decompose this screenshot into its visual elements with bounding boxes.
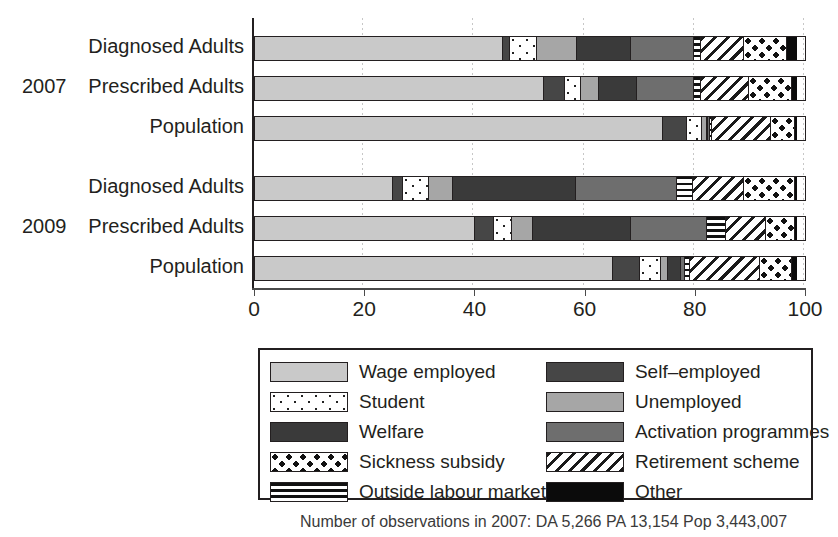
legend-grid: Wage employedSelf–employedStudentUnemplo… (270, 358, 805, 505)
bar-segment-unemp[interactable] (580, 77, 599, 100)
chart-caption: Number of observations in 2007: DA 5,266… (300, 513, 838, 531)
group-year-2007: 2007 (22, 76, 67, 96)
x-tick-label-0: 0 (248, 298, 260, 319)
group-year-2009: 2009 (22, 216, 67, 236)
legend-swatch-icon (270, 362, 348, 382)
bar-segment-unemp[interactable] (428, 177, 453, 200)
bar-segment-sick[interactable] (759, 257, 792, 280)
legend-item[interactable]: Outside labour market (270, 478, 546, 505)
bar-segment-wage[interactable] (255, 77, 544, 100)
bar-row-3[interactable] (254, 176, 806, 201)
bar-segment-retire[interactable] (700, 37, 744, 60)
bar-segment-other[interactable] (794, 117, 797, 140)
y-label-row-3: Diagnosed Adults (88, 176, 244, 196)
bar-segment-activation[interactable] (630, 217, 707, 240)
bar-segment-outside[interactable] (676, 177, 693, 200)
bar-segment-student[interactable] (639, 257, 661, 280)
bar-segment-other[interactable] (794, 177, 797, 200)
bar-segment-wage[interactable] (255, 257, 613, 280)
bar-segment-other[interactable] (794, 217, 797, 240)
bar-segment-activation[interactable] (636, 77, 694, 100)
bar-segment-retire[interactable] (692, 177, 744, 200)
legend-label: Unemployed (635, 392, 742, 411)
bar-segment-wage[interactable] (255, 117, 663, 140)
legend-label: Activation programmes (635, 422, 829, 441)
bar-segment-student[interactable] (509, 37, 537, 60)
bar-segment-self[interactable] (474, 217, 493, 240)
bar-segment-self[interactable] (662, 117, 687, 140)
legend-swatch-icon (270, 482, 348, 502)
y-label-row-2: Population (149, 116, 244, 136)
bar-segment-welfare[interactable] (532, 217, 631, 240)
bar-segment-activation[interactable] (630, 37, 693, 60)
bar-segment-other[interactable] (791, 77, 797, 100)
bar-segment-self[interactable] (543, 77, 565, 100)
bar-segment-sick[interactable] (743, 37, 787, 60)
x-tick-label-20: 20 (353, 298, 376, 319)
y-label-row-5: Population (149, 256, 244, 276)
y-label-row-4: Prescribed Adults (88, 216, 244, 236)
plot-area (252, 18, 805, 288)
bar-segment-welfare[interactable] (667, 257, 681, 280)
bar-segment-sick[interactable] (770, 117, 795, 140)
x-tick-label-80: 80 (683, 298, 706, 319)
bar-segment-student[interactable] (493, 217, 512, 240)
x-tick-80 (695, 288, 696, 296)
legend-swatch-icon (546, 392, 624, 412)
bar-row-0[interactable] (254, 36, 806, 61)
legend-label: Retirement scheme (635, 452, 800, 471)
x-tick-label-40: 40 (463, 298, 486, 319)
bar-segment-retire[interactable] (725, 217, 766, 240)
legend-label: Outside labour market (359, 482, 546, 501)
legend-item[interactable]: Sickness subsidy (270, 448, 546, 475)
legend-label: Student (359, 392, 425, 411)
bar-row-5[interactable] (254, 256, 806, 281)
x-tick-label-100: 100 (787, 298, 822, 319)
legend-label: Welfare (359, 422, 424, 441)
bar-segment-sick[interactable] (748, 77, 792, 100)
legend-item[interactable]: Other (546, 478, 829, 505)
bar-segment-welfare[interactable] (576, 37, 631, 60)
legend-label: Wage employed (359, 362, 496, 381)
legend-item[interactable]: Self–employed (546, 358, 829, 385)
bar-segment-welfare[interactable] (598, 77, 637, 100)
bar-segment-unemp[interactable] (511, 217, 533, 240)
bar-segment-student[interactable] (402, 177, 430, 200)
legend-item[interactable]: Wage employed (270, 358, 546, 385)
bar-segment-sick[interactable] (765, 217, 795, 240)
bar-segment-sick[interactable] (743, 177, 795, 200)
x-tick-100 (805, 288, 806, 296)
bar-segment-other[interactable] (791, 257, 797, 280)
legend-swatch-icon (270, 392, 348, 412)
legend-label: Sickness subsidy (359, 452, 505, 471)
y-axis-labels: 2007 2009 Diagnosed Adults Prescribed Ad… (0, 0, 252, 300)
bar-segment-student[interactable] (564, 77, 581, 100)
x-tick-20 (364, 288, 365, 296)
bar-segment-unemp[interactable] (536, 37, 577, 60)
legend-box: Wage employedSelf–employedStudentUnemplo… (258, 348, 813, 500)
legend-item[interactable]: Retirement scheme (546, 448, 829, 475)
x-tick-0 (254, 288, 255, 296)
bar-segment-activation[interactable] (575, 177, 677, 200)
bar-segment-retire[interactable] (689, 257, 761, 280)
bar-segment-student[interactable] (686, 117, 703, 140)
bar-segment-retire[interactable] (711, 117, 772, 140)
legend-label: Other (635, 482, 683, 501)
bar-row-2[interactable] (254, 116, 806, 141)
bar-segment-welfare[interactable] (452, 177, 576, 200)
bar-segment-wage[interactable] (255, 37, 503, 60)
bar-segment-wage[interactable] (255, 217, 475, 240)
legend-item[interactable]: Unemployed (546, 388, 829, 415)
bar-row-4[interactable] (254, 216, 806, 241)
bar-segment-retire[interactable] (700, 77, 750, 100)
y-label-row-0: Diagnosed Adults (88, 36, 244, 56)
x-axis-line (252, 288, 806, 290)
bar-segment-wage[interactable] (255, 177, 393, 200)
legend-item[interactable]: Activation programmes (546, 418, 829, 445)
bar-row-1[interactable] (254, 76, 806, 101)
bar-segment-other[interactable] (786, 37, 797, 60)
bar-segment-outside[interactable] (706, 217, 725, 240)
legend-item[interactable]: Student (270, 388, 546, 415)
bar-segment-self[interactable] (612, 257, 640, 280)
legend-item[interactable]: Welfare (270, 418, 546, 445)
